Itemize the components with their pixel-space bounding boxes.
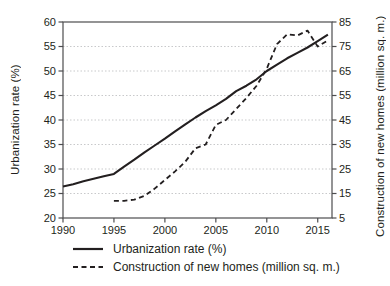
- left-axis-tick-label: 25: [44, 187, 56, 199]
- legend-item-construction: Construction of new homes (million sq. m…: [72, 258, 340, 276]
- x-axis-tick-label: 1990: [51, 224, 75, 236]
- left-axis-tick-label: 60: [44, 16, 56, 28]
- dashed-line-swatch: [72, 264, 104, 270]
- solid-line-swatch: [72, 246, 104, 252]
- right-axis-tick-label: 25: [339, 163, 351, 175]
- plot-canvas: 2025303540455055605152535455565758519901…: [0, 0, 390, 240]
- right-axis-tick-label: 75: [339, 40, 351, 52]
- right-axis-title: Construction of new homes (million sq. m…: [372, 0, 387, 252]
- urbanization-rate-line: [63, 35, 328, 187]
- legend-label-urbanization: Urbanization rate (%): [113, 242, 226, 256]
- legend-label-construction: Construction of new homes (million sq. m…: [113, 260, 340, 274]
- right-axis-tick-label: 5: [339, 212, 345, 224]
- right-axis-tick-label: 65: [339, 65, 351, 77]
- right-axis-tick-label: 35: [339, 138, 351, 150]
- legend-item-urbanization: Urbanization rate (%): [72, 240, 340, 258]
- right-axis-tick-label: 85: [339, 16, 351, 28]
- right-axis-tick-label: 55: [339, 89, 351, 101]
- x-axis-tick-label: 2005: [204, 224, 228, 236]
- left-axis-tick-label: 50: [44, 65, 56, 77]
- construction-new-homes-line: [114, 31, 328, 201]
- left-axis-tick-label: 30: [44, 163, 56, 175]
- left-axis-tick-label: 20: [44, 212, 56, 224]
- left-axis-tick-label: 45: [44, 89, 56, 101]
- x-axis-tick-label: 2010: [255, 224, 279, 236]
- legend: Urbanization rate (%) Construction of ne…: [72, 240, 340, 276]
- left-axis-tick-label: 40: [44, 114, 56, 126]
- right-axis-tick-label: 45: [339, 114, 351, 126]
- x-axis-tick-label: 2000: [153, 224, 177, 236]
- x-axis-tick-label: 2015: [305, 224, 329, 236]
- left-axis-tick-label: 35: [44, 138, 56, 150]
- x-axis-tick-label: 1995: [102, 224, 126, 236]
- left-axis-tick-label: 55: [44, 40, 56, 52]
- dual-axis-line-chart: Urbanization rate (%) 202530354045505560…: [0, 0, 390, 286]
- right-axis-tick-label: 15: [339, 187, 351, 199]
